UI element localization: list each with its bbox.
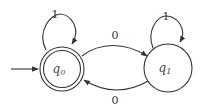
edge-q0-q1 <box>82 46 147 57</box>
state-q0: q0 <box>40 47 84 91</box>
edge-q1-q0 <box>84 80 150 90</box>
self-loop-q0 <box>43 14 76 50</box>
transition-label-q1-q1: 1 <box>163 10 170 23</box>
state-q1: q1 <box>144 44 192 92</box>
state-q0-subscript: 0 <box>60 68 65 77</box>
transition-label-q0-q0: 1 <box>52 8 59 21</box>
automaton-diagram: 1 1 0 0 q0 q1 <box>0 0 205 109</box>
state-q1-subscript: 1 <box>166 67 171 76</box>
transition-label-q0-q1: 0 <box>112 29 119 42</box>
transition-label-q1-q0: 0 <box>112 94 119 107</box>
